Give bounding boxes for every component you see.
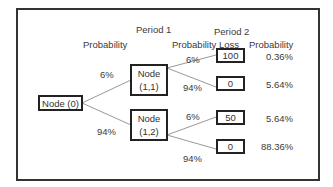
node-1-2-line2: (1,2): [139, 126, 159, 137]
prob-root-n11: 6%: [100, 69, 114, 80]
node-1-2-line1: Node: [138, 113, 161, 124]
probability-header-1: Probability: [83, 39, 127, 50]
leaf-loss-1: 100: [216, 48, 245, 63]
prob-root-n12: 94%: [97, 126, 116, 137]
node-root-label: Node (0): [42, 98, 79, 109]
leaf-loss-4: 0: [216, 139, 245, 154]
probability-header-3: Probability: [249, 39, 293, 50]
node-1-1-line1: Node: [138, 68, 161, 79]
leaf-loss-3: 50: [216, 110, 245, 125]
leaf-loss-2-value: 0: [228, 78, 233, 89]
leaf-loss-3-value: 50: [225, 112, 236, 123]
leaf-loss-4-value: 0: [228, 141, 233, 152]
leaf-prob-1: 0.36%: [266, 51, 293, 62]
leaf-prob-2: 5.64%: [266, 79, 293, 90]
leaf-loss-1-value: 100: [223, 50, 239, 61]
prob-n12-l3: 6%: [186, 111, 200, 122]
probability-header-2: Probability: [172, 39, 216, 50]
edge-n12-l4: [167, 135, 216, 149]
period2-header: Period 2: [214, 26, 249, 37]
node-1-1: Node (1,1): [130, 64, 168, 96]
leaf-prob-3: 5.64%: [266, 113, 293, 124]
node-root: Node (0): [38, 95, 83, 111]
prob-n11-l2: 94%: [183, 82, 202, 93]
leaf-prob-4: 88.36%: [261, 141, 293, 152]
edge-root-n12: [82, 103, 131, 125]
node-1-2: Node (1,2): [130, 109, 168, 141]
period1-header: Period 1: [136, 24, 171, 35]
edge-root-n11: [82, 80, 131, 103]
leaf-loss-2: 0: [216, 76, 245, 91]
prob-n12-l4: 94%: [183, 153, 202, 164]
node-1-1-line2: (1,1): [139, 81, 159, 92]
prob-n11-l1: 6%: [186, 54, 200, 65]
